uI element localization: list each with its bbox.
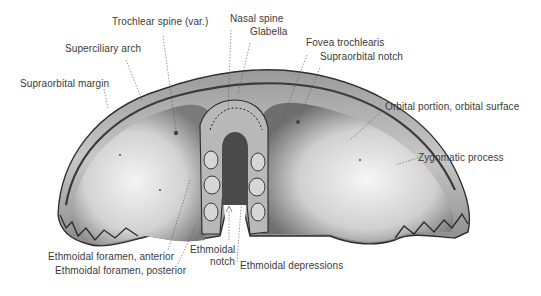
label-ethmoidal-foramen-anterior: Ethmoidal foramen, anterior [48, 251, 174, 262]
label-trochlear-spine: Trochlear spine (var.) [112, 16, 208, 27]
label-ethmoidal-notch-line2: notch [210, 256, 235, 267]
label-superciliary-arch: Superciliary arch [65, 43, 141, 54]
label-glabella: Glabella [250, 26, 288, 37]
right-orbital-surface [262, 103, 454, 242]
label-zygomatic-process: Zygomatic process [418, 152, 504, 163]
label-supraorbital-margin: Supraorbital margin [20, 78, 109, 89]
label-nasal-spine: Nasal spine [230, 13, 283, 24]
label-supraorbital-notch: Supraorbital notch [320, 51, 403, 62]
label-ethmoidal-depressions: Ethmoidal depressions [240, 260, 343, 271]
label-orbital-portion: Orbital portion, orbital surface [385, 101, 519, 112]
label-ethmoidal-foramen-posterior: Ethmoidal foramen, posterior [55, 265, 186, 276]
label-fovea-trochlearis: Fovea trochlearis [306, 37, 384, 48]
label-ethmoidal-notch-line1: Ethmoidal [190, 244, 235, 255]
left-orbital-surface [72, 105, 212, 244]
